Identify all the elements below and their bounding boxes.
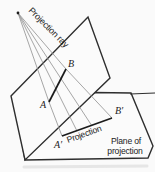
plane-of-projection-label-line2: projection (107, 146, 143, 156)
back-edge-extension-line (130, 93, 155, 94)
point-a-label: A (39, 99, 47, 110)
point-a-prime-label: A′ (53, 139, 63, 150)
plane-of-projection-label-line1: Plane of (111, 136, 142, 146)
station-point-dot (17, 12, 20, 15)
point-b-label: B (68, 58, 74, 69)
point-b-prime-label: B′ (115, 105, 124, 116)
diagram-canvas: Projection ray B A A′ B′ Projection Plan… (0, 0, 155, 172)
projection-diagram: Projection ray B A A′ B′ Projection Plan… (0, 0, 155, 172)
scan-smear-artifact (24, 166, 147, 167)
